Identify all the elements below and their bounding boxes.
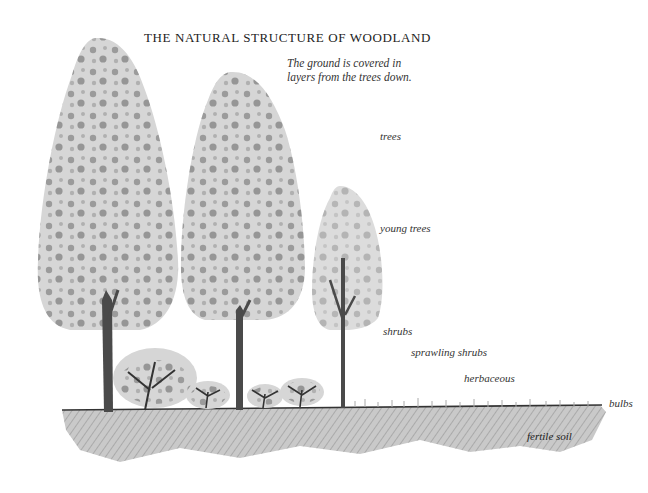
woodland-diagram: THE NATURAL STRUCTURE OF WOODLAND The gr… — [0, 0, 648, 493]
tall-tree-middle — [181, 72, 305, 410]
label-bulbs: bulbs — [609, 397, 633, 409]
young-tree — [312, 186, 383, 408]
label-herbaceous: herbaceous — [464, 372, 515, 384]
label-trees: trees — [380, 130, 401, 142]
diagram-caption: The ground is covered in layers from the… — [287, 56, 427, 84]
label-fertile-soil: fertile soil — [527, 430, 572, 442]
label-shrubs: shrubs — [383, 325, 412, 337]
label-young-trees: young trees — [380, 222, 431, 234]
diagram-title: THE NATURAL STRUCTURE OF WOODLAND — [144, 30, 431, 46]
sprawling-shrubs — [247, 378, 324, 408]
fertile-soil-ground — [62, 405, 606, 462]
label-sprawling-shrubs: sprawling shrubs — [411, 346, 487, 358]
shrubs — [113, 348, 230, 410]
